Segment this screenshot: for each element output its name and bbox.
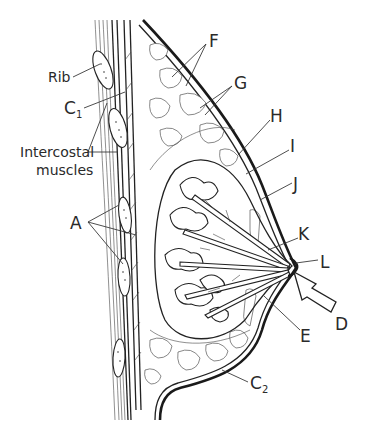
lobule xyxy=(165,248,203,271)
label-l: L xyxy=(320,252,330,272)
label-g: G xyxy=(234,73,247,93)
label-a: A xyxy=(70,213,82,233)
label-rib: Rib xyxy=(48,69,71,85)
label-c2: C2 xyxy=(250,373,268,395)
label-c1: C1 xyxy=(64,98,82,120)
label-j: J xyxy=(292,174,298,194)
lobule xyxy=(180,177,218,200)
arrow-d xyxy=(294,272,336,312)
label-e: E xyxy=(300,326,311,346)
label-f: F xyxy=(209,31,219,51)
label-k: K xyxy=(298,224,310,244)
rib-3 xyxy=(117,196,134,233)
lobule xyxy=(170,207,208,231)
rib-5 xyxy=(112,339,126,378)
breast-anatomy-diagram: Rib C1 Intercostal muscles A F G H I J K… xyxy=(0,0,365,434)
label-h: H xyxy=(270,106,283,126)
label-muscles: muscles xyxy=(36,162,93,178)
label-intercostal: Intercostal xyxy=(20,144,94,160)
label-i: I xyxy=(290,136,295,156)
glandular-tissue xyxy=(155,160,292,339)
label-d: D xyxy=(335,314,348,334)
